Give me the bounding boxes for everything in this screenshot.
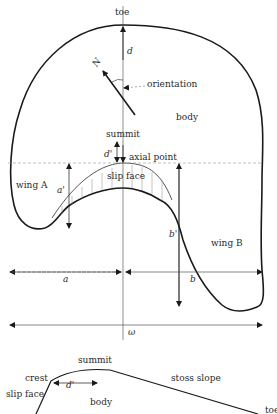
toe-label: toe <box>115 8 129 17</box>
a-label: a <box>63 275 68 284</box>
north-arrow <box>103 71 135 115</box>
axial-point-label: axial point <box>129 153 177 162</box>
diagram-drawing <box>0 0 277 414</box>
orientation-arc <box>112 79 123 82</box>
profile-body-label: body <box>90 398 112 407</box>
slip-face-label: slip face <box>107 172 145 181</box>
profile-slip-face-label: slip face <box>6 390 44 399</box>
orientation-leader <box>124 86 145 88</box>
dune-outline <box>11 25 264 311</box>
profile-d-prime-label: d' <box>66 381 74 390</box>
profile-stoss-slope-label: stoss slope <box>171 374 221 383</box>
omega-label: ω <box>128 328 135 337</box>
profile-outline <box>36 369 258 414</box>
summit-label: summit <box>106 130 140 139</box>
b-prime-label: b' <box>169 230 177 239</box>
d-prime-label: d' <box>104 150 112 159</box>
a-prime-label: a' <box>57 186 65 195</box>
profile-summit-label: summit <box>78 356 112 365</box>
orientation-label: orientation <box>147 80 197 89</box>
d-label: d <box>127 47 133 56</box>
wing-a-label: wing A <box>16 181 48 190</box>
wing-b-label: wing B <box>211 239 243 248</box>
profile-crest-label: crest <box>25 374 48 383</box>
barchan-dune-diagram: toe d N orientation body summit d' axial… <box>0 0 277 414</box>
profile-toe-label: toe <box>265 406 277 414</box>
body-label: body <box>176 113 198 122</box>
b-label: b <box>190 275 196 284</box>
